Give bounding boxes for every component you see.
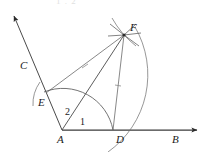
spoke-se xyxy=(124,35,139,46)
arc-centered-at-A xyxy=(44,88,113,130)
point-label-F: F xyxy=(130,22,137,33)
geometry-figure: 1 . 2 xyxy=(0,0,212,152)
tick-mark-DF xyxy=(115,85,121,86)
point-label-A: A xyxy=(57,134,64,145)
point-label-D: D xyxy=(116,134,124,145)
geometry-canvas xyxy=(0,0,212,152)
rays-group xyxy=(14,16,197,130)
arc-centered-at-D xyxy=(108,27,148,152)
ray-AC xyxy=(14,16,62,130)
tick-marks-group xyxy=(82,64,121,86)
point-label-C: C xyxy=(20,60,27,71)
angle-label-2: 2 xyxy=(65,107,70,117)
point-label-E: E xyxy=(38,97,45,108)
point-label-B: B xyxy=(172,134,179,145)
segment-EF xyxy=(46,35,124,93)
arcs-group xyxy=(33,18,148,152)
construction-lines-group xyxy=(46,35,124,130)
angle-label-1: 1 xyxy=(80,117,85,127)
point-F-dot xyxy=(122,33,125,36)
spoke-w xyxy=(108,35,124,36)
